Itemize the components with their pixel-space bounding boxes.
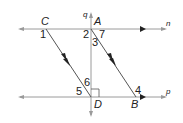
arrow-left-icon [18, 27, 24, 31]
line-p [18, 94, 167, 100]
angle-6: 6 [84, 76, 90, 88]
angle-1: 1 [40, 28, 46, 40]
arrow-left-icon [18, 95, 24, 99]
label-point-b: B [131, 98, 138, 110]
geometry-diagram: q n p A C D B 1 2 3 4 5 6 7 [0, 0, 183, 123]
angle-3: 3 [92, 36, 98, 48]
angle-5: 5 [76, 85, 82, 97]
arrow-down-icon [89, 111, 93, 117]
label-point-d: D [94, 98, 102, 110]
label-line-q: q [83, 10, 88, 19]
line-q [89, 12, 93, 117]
label-point-a: A [93, 15, 101, 27]
right-angle-mark-icon [91, 89, 99, 97]
label-line-n: n [166, 19, 171, 28]
angle-2: 2 [83, 28, 89, 40]
label-line-p: p [165, 87, 171, 96]
angle-7: 7 [99, 28, 105, 40]
label-point-c: C [41, 15, 49, 27]
arrow-up-icon [89, 12, 93, 18]
parallel-mark-icon [140, 26, 146, 32]
angle-4: 4 [135, 84, 141, 96]
